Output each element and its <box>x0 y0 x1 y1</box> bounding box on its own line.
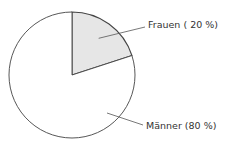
pie-chart: Frauen ( 20 %) Männer (80 %) <box>0 0 231 143</box>
slice-label-maenner: Männer (80 %) <box>146 120 216 131</box>
slice-label-frauen: Frauen ( 20 %) <box>148 19 218 30</box>
